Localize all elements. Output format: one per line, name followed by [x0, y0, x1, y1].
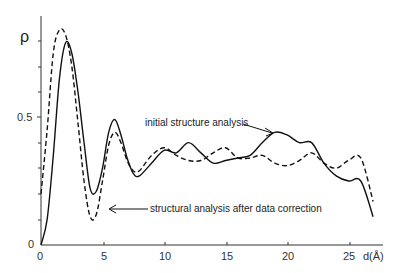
y-tick-05: 0.5	[17, 111, 32, 123]
series-initial	[41, 41, 373, 245]
x-tick-15: 15	[221, 250, 233, 262]
x-tick-10: 10	[159, 250, 171, 262]
chart-plot	[0, 0, 406, 273]
x-tick-5: 5	[101, 250, 107, 262]
y-tick-0: 0	[28, 238, 34, 250]
y-axis-label: ρ	[20, 28, 29, 46]
annotation-initial: initial structure analysis	[145, 117, 248, 128]
x-tick-0: 0	[37, 250, 43, 262]
x-tick-20: 20	[282, 250, 294, 262]
annotation-arrows	[109, 124, 273, 213]
annotation-corrected: structural analysis after data correctio…	[150, 203, 322, 214]
x-axis-label: d(Å)	[363, 250, 384, 262]
x-tick-25: 25	[343, 250, 355, 262]
